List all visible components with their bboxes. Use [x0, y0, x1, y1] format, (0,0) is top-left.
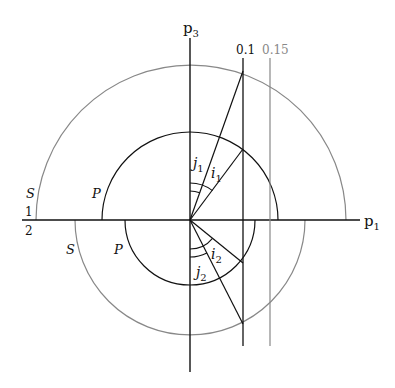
angle-label-j2: j2	[193, 264, 207, 283]
upper-s-label: S	[26, 186, 35, 201]
medium-1-label: 1	[25, 205, 33, 219]
ray-p-upper	[190, 149, 243, 220]
p3-axis-label: p3	[183, 19, 199, 39]
upper-s-curve	[36, 65, 346, 220]
upper-p-label: P	[91, 186, 101, 201]
diagram-canvas: p3 p1 0.1 0.15 S P S P 1 2 j1 i1 i2 j2	[0, 0, 395, 388]
slowness-label-0.1: 0.1	[236, 43, 255, 57]
p1-axis-label: p1	[364, 212, 380, 232]
lower-s-label: S	[66, 242, 75, 257]
angle-label-i1: i1	[211, 165, 222, 184]
angle-label-j1: j1	[190, 155, 204, 174]
angle-arc-i2	[190, 238, 213, 249]
ray-s-upper	[190, 71, 243, 220]
angle-arc-j2	[190, 253, 207, 257]
angle-label-i2: i2	[211, 246, 222, 265]
slowness-label-0.15: 0.15	[262, 43, 289, 57]
medium-2-label: 2	[25, 224, 33, 238]
angle-arc-j1	[190, 191, 200, 193]
lower-p-label: P	[113, 242, 123, 257]
